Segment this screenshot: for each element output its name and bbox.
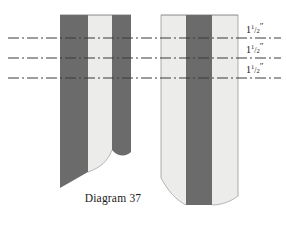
dimension-label-1: 11/2″ — [246, 25, 263, 35]
dimension-label-2: 11/2″ — [246, 45, 263, 55]
right-panel-stripe-dark — [186, 15, 212, 205]
dimension-label-2-unit: ″ — [260, 41, 264, 51]
diagram-figure: 11/2″ 11/2″ 11/2″ Diagram 37 — [0, 0, 286, 225]
dimension-label-3: 11/2″ — [246, 65, 263, 75]
dimension-label-3-unit: ″ — [260, 61, 264, 71]
left-panel-stripe-dark-1 — [60, 15, 88, 188]
dimension-lines — [8, 38, 281, 78]
dimension-label-1-unit: ″ — [260, 21, 264, 31]
left-panel-stripe-light — [88, 15, 112, 172]
right-fabric-panel — [161, 15, 238, 205]
left-fabric-panel — [60, 15, 131, 188]
right-panel-stripe-light-2 — [212, 15, 238, 205]
left-panel-stripe-dark-2 — [112, 15, 131, 156]
figure-caption: Diagram 37 — [58, 192, 168, 204]
right-panel-stripe-light-1 — [161, 15, 186, 205]
